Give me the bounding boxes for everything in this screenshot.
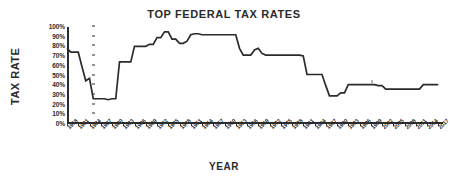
y-axis-tick-label: 10% [52,110,65,117]
y-axis-tick-label: 70% [52,52,65,59]
tax-rate-line-series [67,26,442,123]
plot-area [67,26,442,123]
y-axis-tick-label: 100% [49,23,65,30]
x-axis-title: YEAR [0,161,448,172]
y-axis-tick-labels: 100%90%80%70%60%50%40%30%20%10%0% [28,26,65,123]
y-axis-tick-label: 20% [52,100,65,107]
artifact-speck [371,80,373,84]
tax-rate-line-path [67,32,438,100]
y-axis-title: TAX RATE [6,28,24,124]
y-axis-tick-label: 80% [52,42,65,49]
y-axis-tick-label: 40% [52,81,65,88]
y-axis-tick-label: 30% [52,90,65,97]
y-axis-tick-label: 90% [52,32,65,39]
x-axis-tick-labels: 1918192119241927193019331936193919421945… [0,126,448,152]
chart-title: TOP FEDERAL TAX RATES [0,8,448,20]
y-axis-tick-label: 50% [52,71,65,78]
y-axis-tick-label: 60% [52,61,65,68]
